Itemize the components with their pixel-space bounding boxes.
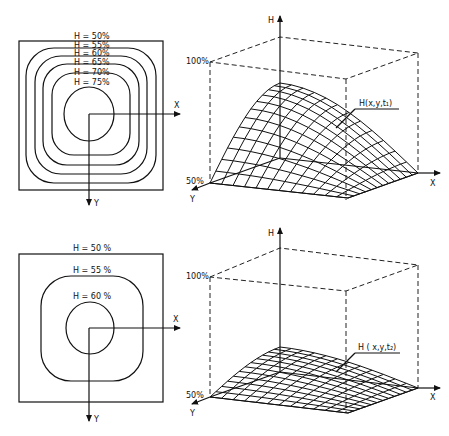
level-100-label: 100%	[186, 272, 209, 281]
contour-label-65: H = 65%	[74, 58, 110, 67]
humidity-distribution-figure: X Y H = 50% H = 55% H = 60% H = 65% H = …	[0, 0, 449, 436]
x-axis-label: X	[430, 179, 436, 188]
contour-label-70: H = 70%	[74, 68, 110, 77]
contour-label-50: H = 50%	[74, 32, 110, 41]
contour-label-60: H = 60 %	[73, 292, 112, 301]
contour-label-60: H = 60%	[74, 49, 110, 58]
surface-label: H(x,y,t₁)	[359, 99, 392, 108]
x-axis-label: X	[174, 101, 180, 110]
surface-label: H ( x,y,t₂)	[358, 343, 396, 352]
level-100-label: 100%	[186, 57, 209, 66]
h-axis-label: H	[268, 229, 274, 238]
level-50-label: 50%	[186, 391, 204, 400]
top-surface-plot: H X Y 100% 50% H(x,y,t₁)	[186, 16, 440, 204]
x-axis-label: X	[173, 315, 179, 324]
top-contour-plot: X Y H = 50% H = 55% H = 60% H = 65% H = …	[19, 32, 180, 208]
y-axis-label: Y	[189, 195, 195, 204]
box-top-face	[210, 37, 418, 79]
y-axis-label: Y	[93, 199, 99, 208]
x-axis-label: X	[430, 393, 436, 402]
contour-label-75: H = 75%	[74, 78, 110, 87]
surface-mesh	[210, 347, 418, 413]
box-top-face	[210, 248, 418, 291]
level-50-label: 50%	[186, 177, 204, 186]
y-axis-label: Y	[189, 409, 195, 418]
bottom-contour-plot: X Y H = 50 % H = 55 % H = 60 %	[19, 244, 180, 424]
contour-label-50: H = 50 %	[73, 244, 112, 253]
h-axis-label: H	[268, 16, 274, 25]
y-axis-label: Y	[93, 415, 99, 424]
bottom-surface-plot: H X Y 100% 50% H ( x,y,t₂)	[186, 228, 440, 418]
contour-label-55: H = 55 %	[73, 266, 112, 275]
